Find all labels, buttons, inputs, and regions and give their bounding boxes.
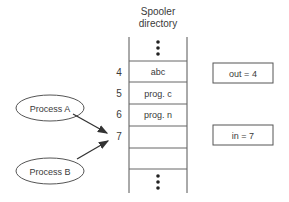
- spooler-diagram: Spooler directory abc prog. c prog. n 4 …: [0, 0, 289, 202]
- process-b-arrow-icon: [77, 141, 108, 159]
- process-a-arrow-icon: [73, 114, 107, 133]
- slot-7-index: 7: [116, 131, 122, 142]
- process-a-label: Process A: [30, 104, 71, 114]
- slot-6-index: 6: [116, 109, 122, 120]
- title-line-1: Spooler: [141, 6, 176, 17]
- top-ellipsis-icon: [156, 40, 160, 56]
- in-variable-label: in = 7: [232, 131, 254, 141]
- title-line-2: directory: [139, 18, 177, 29]
- process-b-label: Process B: [29, 167, 70, 177]
- slot-5-index: 5: [116, 88, 122, 99]
- bottom-ellipsis-icon: [156, 174, 160, 190]
- slot-4-index: 4: [116, 67, 122, 78]
- slot-6-value: prog. n: [144, 110, 172, 120]
- slot-4-value: abc: [151, 67, 166, 77]
- slot-5-value: prog. c: [144, 89, 172, 99]
- out-variable-label: out = 4: [229, 69, 257, 79]
